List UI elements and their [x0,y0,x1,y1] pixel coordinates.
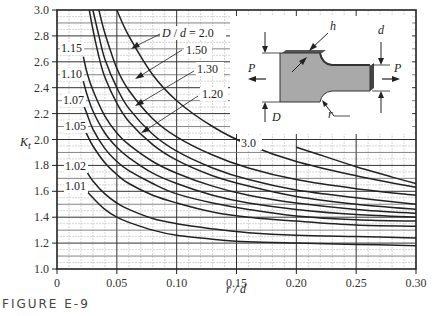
inset-diagram: D d P P h r [230,16,412,134]
y-axis-label: Kt [19,135,31,151]
label-dd-1-15: 1.15 [61,41,82,55]
x-tick-label: 0.25 [346,276,367,290]
y-tick-label: 2.6 [34,55,49,69]
label-dd-1-01: 1.01 [65,179,86,193]
label-dd-1-07: 1.07 [63,93,84,107]
x-axis-label: r / d [226,282,247,296]
y-tick-label: 2.0 [34,133,49,147]
x-tick-label: 0.05 [106,276,127,290]
y-tick-label: 1.2 [34,236,49,250]
y-tick-label: 2.2 [34,107,49,121]
stress-concentration-chart: 1.01.21.41.61.82.02.22.42.62.83.0 00.050… [0,0,432,296]
label-dd-1-02: 1.02 [65,159,86,173]
x-tick-label: 0.20 [286,276,307,290]
y-tick-label: 1.0 [34,262,49,276]
label-dd-1-50: 1.50 [186,43,207,57]
x-tick-label: 0.30 [406,276,427,290]
y-tick-label: 3.0 [34,3,49,17]
label-dd-3-0: 3.0 [241,136,256,150]
figure-caption: FIGURE E-9 [2,297,90,311]
y-tick-label: 1.6 [34,184,49,198]
label-dd-2-0: D / d = 2.0 [161,26,214,40]
x-tick-label: 0.10 [166,276,187,290]
x-tick-label: 0 [54,276,60,290]
inset-label-D: D [271,110,281,124]
y-tick-label: 1.8 [34,158,49,172]
label-dd-1-30: 1.30 [197,62,218,76]
y-tick-label: 2.4 [34,81,49,95]
inset-label-p-right: P [393,61,402,75]
y-tick-label: 1.4 [34,210,49,224]
inset-label-p-left: P [247,61,256,75]
label-dd-1-05: 1.05 [65,119,86,133]
y-tick-label: 2.8 [34,29,49,43]
inset-label-d: d [378,23,385,37]
inset-label-r: r [328,107,333,121]
label-dd-1-10: 1.10 [61,67,82,81]
y-axis-ticks: 1.01.21.41.61.82.02.22.42.62.83.0 [34,3,57,276]
label-dd-1-20: 1.20 [202,87,223,101]
inset-label-h: h [330,19,336,33]
